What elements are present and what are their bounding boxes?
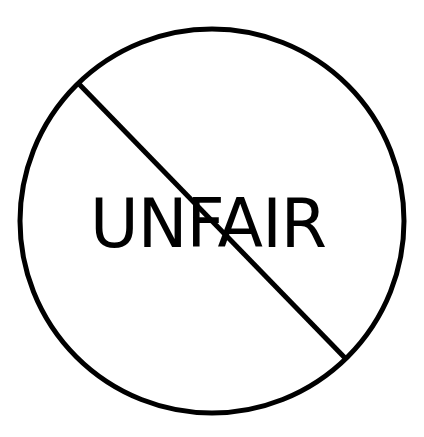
prohibition-sign: UNFAIR [0, 0, 424, 437]
sign-word: UNFAIR [90, 184, 326, 263]
